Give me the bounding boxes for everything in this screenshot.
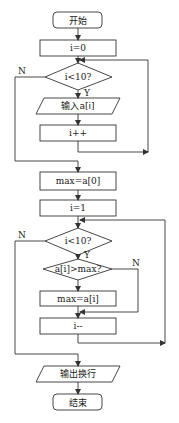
end-label: 结束 (69, 397, 87, 408)
cond2-yes-label: Y (83, 250, 91, 260)
start-label: 开始 (69, 15, 87, 26)
cond3-label: a[i]>max? (55, 264, 102, 274)
assign-max-label: max=a[i] (57, 294, 99, 304)
input-label: 输入a[i] (61, 100, 94, 111)
init-i0-label: i=0 (70, 43, 86, 53)
cond2-label: i<10? (65, 236, 92, 246)
init-i1-label: i=1 (70, 203, 86, 213)
dec-label: i-- (74, 321, 83, 331)
cond1-no-label: N (18, 66, 26, 76)
cond1-label: i<10? (65, 72, 92, 82)
cond2-no-label: N (18, 230, 26, 240)
output-label: 输出换行 (60, 368, 96, 379)
init-max-label: max=a[0] (56, 176, 101, 186)
cond3-no-label: N (132, 258, 140, 268)
flowchart: 开始 i=0 i<10? Y N 输入a[i] i++ max=a[0] i=1… (0, 0, 179, 423)
inc-label: i++ (69, 128, 87, 138)
cond1-yes-label: Y (83, 88, 91, 98)
